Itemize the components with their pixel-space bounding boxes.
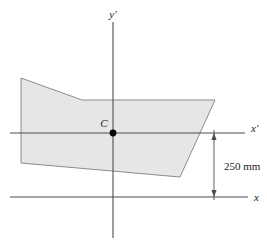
dimension-arrow-bottom bbox=[211, 190, 216, 197]
centroid-marker bbox=[110, 130, 117, 137]
x-prime-axis-label: x′ bbox=[250, 122, 259, 134]
cross-section-region bbox=[21, 78, 215, 177]
cross-section-diagram: C y′ x′ x 250 mm bbox=[0, 0, 267, 249]
centroid-label: C bbox=[100, 117, 108, 129]
x-axis-label: x bbox=[253, 191, 259, 203]
dimension-label: 250 mm bbox=[224, 160, 261, 172]
y-prime-axis-label: y′ bbox=[108, 8, 117, 20]
dimension-arrow-top bbox=[211, 133, 216, 140]
figure-container: C y′ x′ x 250 mm bbox=[0, 0, 267, 249]
